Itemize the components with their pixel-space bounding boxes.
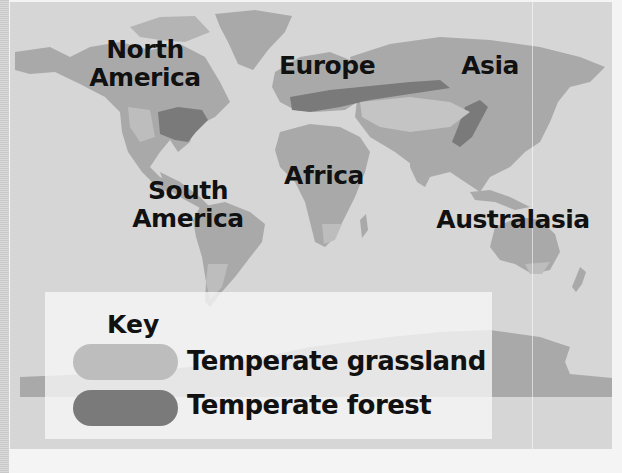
africa-grassland	[322, 224, 342, 244]
forest-label: Temperate forest	[187, 390, 431, 420]
label-europe: Europe	[272, 52, 382, 80]
grassland-swatch	[73, 344, 178, 380]
label-north-america: North America	[70, 36, 220, 92]
page-edge-strip	[0, 0, 9, 473]
label-australasia: Australasia	[428, 206, 598, 234]
map-key: Key Temperate grassland Temperate forest	[45, 292, 492, 439]
new-zealand-shape	[572, 267, 586, 292]
key-title: Key	[107, 310, 159, 339]
india-shape	[410, 152, 435, 187]
world-map: North America Europe Asia Africa South A…	[10, 2, 612, 449]
label-africa: Africa	[276, 162, 372, 190]
label-africa-line1: Africa	[276, 162, 372, 190]
label-south-america: South America	[118, 177, 258, 233]
label-europe-line1: Europe	[272, 52, 382, 80]
label-asia: Asia	[450, 52, 530, 80]
label-north-america-line1: North	[70, 36, 220, 64]
label-australasia-line1: Australasia	[428, 206, 598, 234]
label-south-america-line2: America	[118, 205, 258, 233]
label-south-america-line1: South	[118, 177, 258, 205]
forest-swatch	[73, 390, 178, 426]
madagascar-shape	[360, 214, 368, 238]
grassland-label: Temperate grassland	[187, 346, 486, 376]
label-asia-line1: Asia	[450, 52, 530, 80]
label-north-america-line2: America	[70, 64, 220, 92]
